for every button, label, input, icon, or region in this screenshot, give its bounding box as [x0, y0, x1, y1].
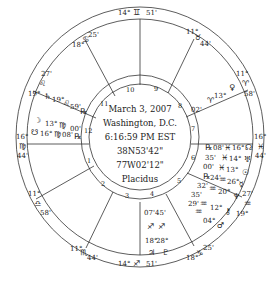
- cusp-line-2: [36, 166, 94, 199]
- south-node-icon: ☋: [31, 128, 38, 137]
- svg-text:45': 45': [155, 209, 166, 217]
- svg-text:51': 51': [146, 9, 157, 17]
- svg-text:27': 27': [41, 70, 52, 78]
- cusp-line-9: [168, 39, 194, 93]
- saturn-icon: ♄: [44, 92, 51, 101]
- svg-text:44': 44': [87, 254, 98, 262]
- aries-icon: ♈: [242, 79, 249, 88]
- cusp-label-4: 14° ♐ 51': [118, 259, 157, 268]
- cusp-label-3: 11° ♏ 44': [70, 245, 98, 262]
- svg-text:13°: 13°: [226, 166, 238, 174]
- house-number-9: 9: [154, 85, 158, 93]
- svg-text:13°: 13°: [45, 120, 57, 128]
- mercury-icon: ☿: [239, 180, 244, 189]
- house-number-2: 2: [101, 180, 105, 188]
- svg-text:44': 44': [200, 40, 211, 48]
- house-number-10: 10: [126, 86, 134, 94]
- house-number-6: 6: [191, 154, 195, 162]
- cusp-label-5: 18° ♑ 25': [186, 244, 214, 262]
- svg-text:08': 08': [213, 144, 224, 152]
- cusp-label-2: 11° ♎ 58': [28, 190, 51, 217]
- svg-text:51': 51': [146, 260, 157, 268]
- svg-text:32': 32': [197, 182, 208, 190]
- chart-house-system: Placidus: [122, 174, 158, 184]
- neptune-icon: ♆: [233, 192, 240, 201]
- svg-text:11°: 11°: [236, 70, 248, 78]
- svg-text:44': 44': [255, 152, 266, 160]
- leo-icon: ♌: [39, 79, 46, 88]
- svg-text:14°: 14°: [118, 9, 130, 17]
- cusp-label-1: 16° ♍ 44': [16, 133, 28, 160]
- svg-text:28°: 28°: [156, 237, 168, 245]
- svg-text:20°: 20°: [218, 188, 230, 196]
- house-number-8: 8: [178, 102, 182, 110]
- cusp-label-9: 11° ♉ 44': [186, 28, 211, 48]
- cusp-label-10: 14° ♊ 51': [118, 8, 157, 17]
- svg-text:16°: 16°: [40, 130, 52, 138]
- svg-text:35': 35': [191, 191, 202, 199]
- aquarius-icon: ♒: [244, 199, 251, 208]
- svg-text:16°: 16°: [232, 144, 244, 152]
- svg-text:12°: 12°: [210, 204, 222, 212]
- retrograde-icon: ℞: [205, 143, 212, 152]
- house-number-11: 11: [100, 100, 108, 108]
- chiron-icon: ⚷: [225, 207, 231, 216]
- svg-text:19°: 19°: [28, 90, 40, 98]
- sun-icon: ☉: [242, 168, 249, 177]
- aquarius-icon: ♒: [209, 184, 216, 193]
- sagittarius-icon: ♐: [133, 259, 140, 268]
- svg-text:14°: 14°: [118, 260, 130, 268]
- house-number-3: 3: [125, 192, 129, 200]
- svg-text:27': 27': [242, 190, 253, 198]
- pisces-icon: ♓: [218, 163, 225, 172]
- svg-text:25': 25': [203, 244, 214, 252]
- house-number-1: 1: [87, 157, 91, 165]
- aquarius-icon: ♒: [219, 175, 226, 184]
- pluto-icon: ♇: [162, 248, 169, 257]
- svg-text:07': 07': [144, 209, 155, 217]
- sagittarius-icon: ♐: [158, 222, 165, 231]
- svg-text:16°: 16°: [16, 133, 28, 141]
- cusp-label-7: 16° ♓ 44': [254, 133, 266, 160]
- svg-text:35': 35': [205, 154, 216, 162]
- virgo-icon: ♍: [59, 121, 66, 130]
- cusp-line-3: [86, 192, 113, 248]
- sagittarius-icon: ♐: [147, 222, 154, 231]
- svg-text:11°: 11°: [28, 190, 40, 198]
- virgo-icon: ♍: [19, 142, 26, 151]
- svg-text:58': 58': [40, 209, 51, 217]
- north-node-icon: ☊: [245, 143, 252, 152]
- natal-chart-wheel: 1 2 3 4 5 6 7 8 9 10 11 12 March 3, 2007…: [0, 0, 280, 286]
- mars-icon: ♂: [217, 221, 224, 230]
- chart-longitude: 77W02'12": [116, 160, 164, 170]
- svg-text:08': 08': [62, 131, 73, 139]
- svg-text:25': 25': [88, 31, 99, 39]
- chart-time: 6:16:59 PM EST: [105, 132, 176, 142]
- svg-text:02': 02': [191, 106, 202, 114]
- venus-icon: ♀: [229, 83, 235, 92]
- moon-icon: ☽: [34, 116, 41, 125]
- svg-text:13°: 13°: [214, 92, 226, 100]
- house-number-12: 12: [84, 127, 92, 135]
- virgo-icon: ♍: [54, 130, 61, 139]
- jupiter-icon: ♃: [148, 248, 155, 257]
- svg-text:58': 58': [244, 90, 255, 98]
- planet-north-node: ℞ 08' ♓ 16° ☊: [205, 143, 252, 152]
- svg-text:14°: 14°: [229, 155, 241, 163]
- svg-text:26°: 26°: [227, 178, 239, 186]
- house-number-5: 5: [177, 177, 181, 185]
- chart-place: Washington, D.C.: [103, 118, 177, 128]
- house-number-7: 7: [191, 125, 195, 133]
- uranus-icon: ♅: [244, 155, 251, 164]
- planet-saturn: ♄ 19° ♌ 59' ℞: [44, 92, 87, 116]
- svg-text:00': 00': [203, 163, 214, 171]
- svg-text:16°: 16°: [254, 133, 266, 141]
- svg-text:19°: 19°: [236, 210, 248, 218]
- chart-date: March 3, 2007: [108, 104, 171, 114]
- retrograde-icon: ℞: [74, 132, 81, 141]
- center-info: March 3, 2007 Washington, D.C. 6:16:59 P…: [103, 104, 177, 184]
- gemini-icon: ♊: [133, 8, 140, 17]
- pisces-icon: ♓: [257, 142, 264, 151]
- svg-text:44': 44': [17, 152, 28, 160]
- pisces-icon: ♓: [224, 143, 231, 152]
